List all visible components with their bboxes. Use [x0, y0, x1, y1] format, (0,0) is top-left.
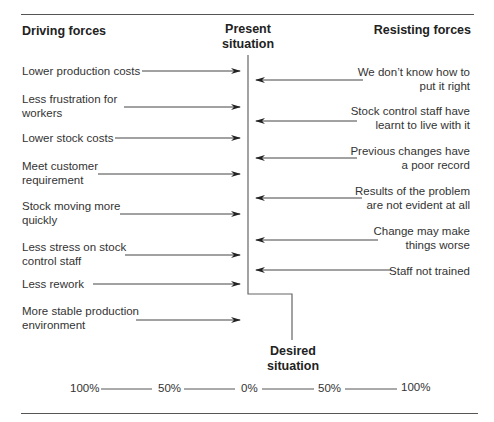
desired-situation-heading: Desired situation: [258, 344, 328, 374]
force-field-lines: [0, 0, 494, 422]
desired-line1: Desired: [258, 344, 328, 359]
resisting-arrows: [256, 80, 391, 270]
scale-right-50: 50%: [318, 382, 341, 394]
driving-arrows: [93, 71, 240, 320]
scale-right-100: 100%: [401, 381, 430, 393]
scale-left-50: 50%: [158, 382, 181, 394]
scale-left-100: 100%: [70, 382, 99, 394]
desired-line2: situation: [258, 359, 328, 374]
scale-zero: 0%: [241, 382, 258, 394]
